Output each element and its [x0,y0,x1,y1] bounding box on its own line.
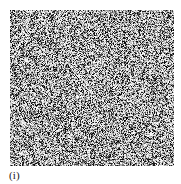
figure-panel: (i) [0,0,181,184]
noise-canvas [10,10,174,166]
figure-caption: (i) [9,169,20,182]
random-noise-image [10,10,174,166]
